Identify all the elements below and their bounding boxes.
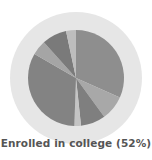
pie-chart: [10, 12, 142, 144]
chart-caption: Enrolled in college (52%): [0, 137, 152, 149]
